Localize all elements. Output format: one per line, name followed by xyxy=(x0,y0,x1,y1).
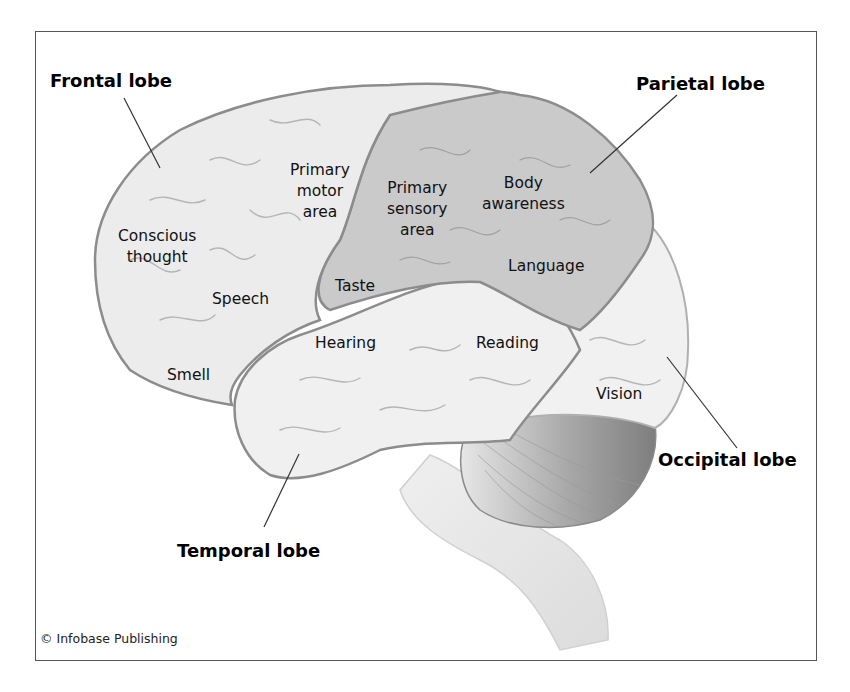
area-label-smell: Smell xyxy=(167,365,210,386)
area-label-vision: Vision xyxy=(596,384,642,405)
temporal-lobe-label: Temporal lobe xyxy=(177,540,320,561)
occipital-lobe-label: Occipital lobe xyxy=(658,449,797,470)
parietal-lobe-label: Parietal lobe xyxy=(636,73,765,94)
area-label-language: Language xyxy=(508,256,585,277)
area-label-primary-sensory-area: Primary sensory area xyxy=(387,178,448,241)
area-label-taste: Taste xyxy=(335,276,375,297)
parietal-leader-line xyxy=(590,95,677,173)
frontal-leader-line xyxy=(124,98,160,168)
area-label-speech: Speech xyxy=(212,289,269,310)
brain-illustration xyxy=(0,0,850,692)
area-label-hearing: Hearing xyxy=(315,333,376,354)
area-label-primary-motor-area: Primary motor area xyxy=(290,160,350,223)
frontal-lobe-label: Frontal lobe xyxy=(50,70,172,91)
area-label-body-awareness: Body awareness xyxy=(482,173,565,215)
area-label-conscious-thought: Conscious thought xyxy=(118,226,196,268)
area-label-reading: Reading xyxy=(476,333,539,354)
copyright-credit: © Infobase Publishing xyxy=(40,631,178,646)
